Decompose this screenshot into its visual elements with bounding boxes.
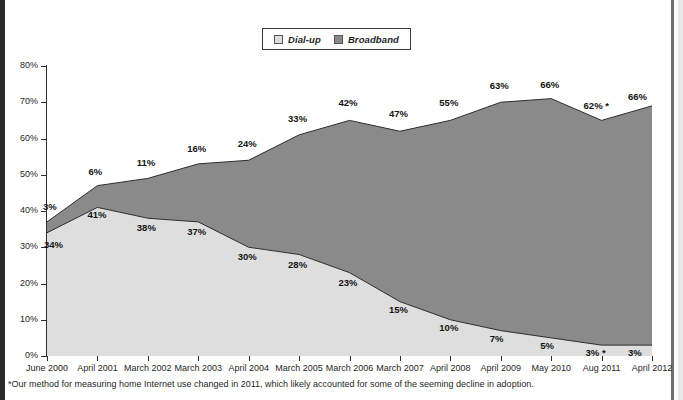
x-axis-tick — [450, 356, 451, 361]
broadband-data-label: 63% — [490, 81, 509, 91]
broadband-data-label: 33% — [288, 114, 307, 124]
x-axis-tick — [501, 356, 502, 361]
dialup-data-label: 10% — [439, 323, 458, 333]
broadband-data-label: 42% — [339, 98, 358, 108]
dialup-data-label: 23% — [339, 278, 358, 288]
dialup-data-label: 3% * — [586, 348, 606, 358]
x-axis-tick-label: April 2012 — [612, 364, 683, 373]
chart-legend: Dial-up Broadband — [262, 28, 411, 50]
stacked-area-chart: Dial-up Broadband 0%10%20%30%40%50%60%70… — [0, 0, 671, 400]
area-series-svg — [47, 66, 652, 356]
dialup-data-label: 38% — [137, 223, 156, 233]
broadband-data-label: 24% — [238, 139, 257, 149]
y-axis-tick-label: 0% — [0, 351, 38, 360]
y-axis-tick-label: 50% — [0, 170, 38, 179]
y-axis-tick-label: 40% — [0, 206, 38, 215]
y-axis-tick-label: 30% — [0, 242, 38, 251]
x-axis-tick — [198, 356, 199, 361]
x-axis-tick — [652, 356, 653, 361]
x-axis-tick — [299, 356, 300, 361]
broadband-data-label: 6% — [88, 167, 102, 177]
broadband-data-label: 66% — [628, 92, 647, 102]
x-axis-tick — [47, 356, 48, 361]
y-axis-tick-label: 80% — [0, 61, 38, 70]
broadband-data-label: 16% — [187, 144, 206, 154]
legend-label-broadband: Broadband — [348, 34, 399, 45]
broadband-data-label: 11% — [137, 158, 156, 168]
x-axis-tick — [249, 356, 250, 361]
broadband-data-label: 47% — [389, 109, 408, 119]
broadband-data-label: 55% — [439, 98, 458, 108]
x-axis-tick — [400, 356, 401, 361]
dialup-data-label: 41% — [87, 210, 106, 220]
y-axis-tick-label: 10% — [0, 315, 38, 324]
x-axis-tick — [551, 356, 552, 361]
dialup-data-label: 15% — [389, 305, 408, 315]
legend-label-dialup: Dial-up — [288, 34, 321, 45]
legend-item-broadband[interactable]: Broadband — [334, 34, 399, 45]
legend-swatch-broadband-icon — [334, 35, 343, 44]
dialup-data-label: 28% — [288, 260, 307, 270]
broadband-data-label: 66% — [540, 80, 559, 90]
broadband-data-label: 3% — [43, 202, 57, 212]
legend-item-dialup[interactable]: Dial-up — [274, 34, 321, 45]
legend-swatch-dialup-icon — [274, 35, 283, 44]
page-edge-right — [671, 0, 674, 400]
x-axis-tick — [350, 356, 351, 361]
chart-footnote: *Our method for measuring home Internet … — [8, 379, 534, 389]
dialup-data-label: 37% — [187, 227, 206, 237]
broadband-data-label: 62% * — [584, 101, 609, 111]
x-axis-tick — [148, 356, 149, 361]
dialup-data-label: 7% — [490, 334, 504, 344]
dialup-data-label: 30% — [238, 252, 257, 262]
page-edge-right-margin — [678, 0, 683, 400]
y-axis-tick-label: 20% — [0, 279, 38, 288]
y-axis-tick-label: 60% — [0, 134, 38, 143]
dialup-data-label: 34% — [44, 240, 63, 250]
x-axis-tick — [97, 356, 98, 361]
y-axis-tick-label: 70% — [0, 97, 38, 106]
plot-area — [47, 66, 652, 356]
dialup-data-label: 3% — [628, 348, 642, 358]
dialup-data-label: 5% — [540, 341, 554, 351]
